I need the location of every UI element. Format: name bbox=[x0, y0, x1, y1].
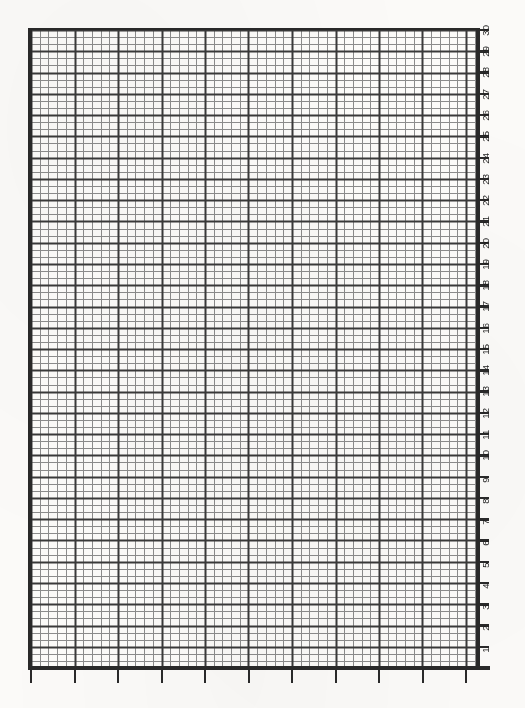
x-axis-tick bbox=[378, 669, 380, 683]
axis-left-border bbox=[28, 28, 32, 670]
plot-area bbox=[31, 30, 479, 668]
x-axis-tick bbox=[204, 669, 206, 683]
x-axis-tick bbox=[422, 669, 424, 683]
x-axis-tick bbox=[465, 669, 467, 683]
x-axis-tick bbox=[30, 669, 32, 683]
y-axis-tick-label: 30 bbox=[481, 10, 491, 36]
scanned-sheet: 1234567891011121314151617181920212223242… bbox=[0, 0, 525, 708]
axis-top-rule bbox=[31, 28, 479, 30]
x-axis-tick bbox=[74, 669, 76, 683]
x-axis-tick bbox=[248, 669, 250, 683]
x-axis-tick bbox=[335, 669, 337, 683]
major-gridlines bbox=[31, 30, 479, 668]
x-axis-tick bbox=[161, 669, 163, 683]
x-axis-tick bbox=[291, 669, 293, 683]
x-axis-tick bbox=[117, 669, 119, 683]
